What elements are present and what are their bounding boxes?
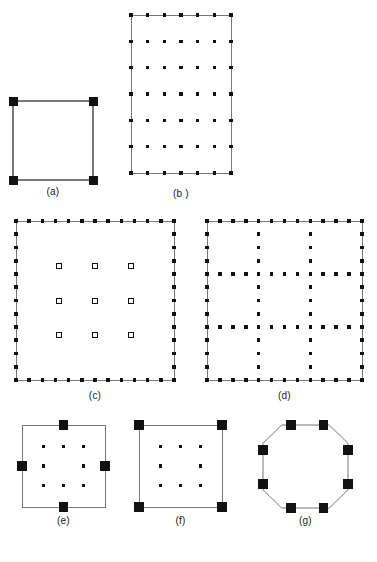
node-marker-small xyxy=(179,40,182,43)
panel-e xyxy=(14,417,113,515)
node-marker-large xyxy=(286,503,296,513)
node-marker-small xyxy=(309,325,313,329)
node-marker-small xyxy=(172,338,176,342)
node-marker-small xyxy=(179,171,182,174)
node-marker-small xyxy=(172,378,176,382)
node-marker-small xyxy=(229,145,232,148)
node-marker-small xyxy=(129,13,132,16)
panel-caption-c: (c) xyxy=(16,390,174,401)
node-marker-small xyxy=(172,299,176,303)
node-marker-small xyxy=(172,246,176,250)
node-marker-open xyxy=(56,333,61,338)
node-marker-small xyxy=(257,299,261,303)
node-marker-small xyxy=(27,219,31,223)
node-marker-small xyxy=(283,219,287,223)
node-marker-small xyxy=(213,119,216,122)
node-marker-small xyxy=(159,464,162,467)
node-marker-small xyxy=(172,259,176,263)
node-marker-large xyxy=(319,503,329,513)
panel-b-drawing xyxy=(123,7,239,181)
node-marker-small xyxy=(218,325,222,329)
panel-e-drawing xyxy=(14,417,113,515)
node-marker-small xyxy=(159,445,162,448)
panel-g-drawing xyxy=(255,417,356,516)
node-marker-small xyxy=(163,92,166,95)
node-marker-small xyxy=(42,464,45,467)
node-marker-open xyxy=(93,298,98,303)
node-marker-large xyxy=(343,445,353,455)
node-marker-small xyxy=(129,119,132,122)
node-marker-small xyxy=(360,352,364,356)
node-marker-open xyxy=(56,263,61,268)
node-marker-small xyxy=(360,272,364,276)
node-marker-small xyxy=(213,13,216,16)
node-marker-small xyxy=(213,40,216,43)
node-marker-small xyxy=(172,285,176,289)
panel-e-outline xyxy=(22,425,105,507)
node-marker-small xyxy=(309,272,313,276)
node-marker-small xyxy=(218,378,222,382)
node-marker-small xyxy=(360,259,364,263)
node-marker-small xyxy=(231,325,235,329)
node-marker-small xyxy=(196,92,199,95)
node-marker-small xyxy=(205,365,209,369)
node-marker-small xyxy=(14,232,18,236)
node-marker-small xyxy=(257,272,261,276)
node-marker-small xyxy=(257,259,261,263)
node-marker-small xyxy=(93,219,97,223)
node-marker-small xyxy=(179,92,182,95)
panel-a-drawing xyxy=(5,93,101,188)
node-marker-small xyxy=(205,378,209,382)
node-marker-small xyxy=(172,365,176,369)
node-marker-small xyxy=(196,145,199,148)
node-marker-small xyxy=(14,365,18,369)
panel-d-outline xyxy=(207,221,362,380)
node-marker-large xyxy=(134,502,144,512)
node-marker-small xyxy=(54,378,58,382)
node-marker-small xyxy=(163,145,166,148)
node-marker-small xyxy=(14,312,18,316)
node-marker-small xyxy=(62,484,65,487)
node-marker-small xyxy=(146,92,149,95)
node-marker-small xyxy=(231,219,235,223)
node-marker-small xyxy=(14,325,18,329)
node-marker-small xyxy=(14,259,18,263)
node-marker-small xyxy=(41,219,45,223)
node-marker-small xyxy=(257,232,261,236)
panel-caption-b: (b ) xyxy=(131,188,231,199)
node-marker-small xyxy=(172,312,176,316)
node-marker-open xyxy=(129,298,134,303)
node-marker-small xyxy=(146,40,149,43)
node-marker-small xyxy=(179,145,182,148)
node-marker-small xyxy=(199,464,202,467)
node-marker-small xyxy=(199,484,202,487)
node-marker-small xyxy=(172,232,176,236)
node-marker-large xyxy=(217,502,227,512)
node-marker-small xyxy=(309,378,313,382)
node-marker-small xyxy=(309,219,313,223)
node-marker-small xyxy=(67,378,71,382)
node-marker-small xyxy=(129,66,132,69)
node-marker-small xyxy=(129,145,132,148)
node-marker-small xyxy=(146,119,149,122)
node-marker-small xyxy=(270,219,274,223)
node-marker-large xyxy=(59,502,69,512)
panel-c xyxy=(8,213,182,388)
node-marker-small xyxy=(14,352,18,356)
node-marker-small xyxy=(14,378,18,382)
node-marker-small xyxy=(146,171,149,174)
node-marker-small xyxy=(196,13,199,16)
node-marker-small xyxy=(257,246,261,250)
node-marker-small xyxy=(179,484,182,487)
node-marker-small xyxy=(163,40,166,43)
node-marker-small xyxy=(321,219,325,223)
node-marker-small xyxy=(205,285,209,289)
node-marker-small xyxy=(82,484,85,487)
panel-d xyxy=(199,213,370,388)
node-marker-small xyxy=(199,445,202,448)
node-marker-large xyxy=(100,461,110,471)
node-marker-small xyxy=(244,272,248,276)
panel-b xyxy=(123,7,239,181)
node-marker-small xyxy=(133,378,137,382)
node-marker-small xyxy=(229,92,232,95)
